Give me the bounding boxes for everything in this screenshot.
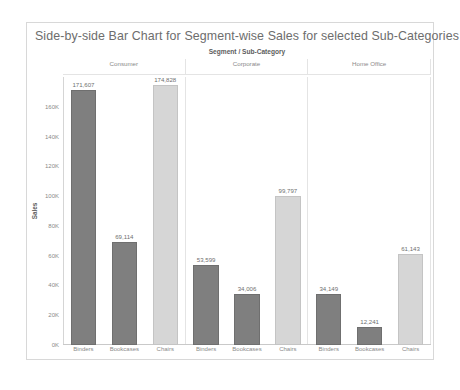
page-title: Side-by-side Bar Chart for Segment-wise … [35, 29, 429, 43]
y-axis-title: Sales [31, 188, 38, 234]
bar-value-label: 69,114 [94, 233, 154, 240]
segment-header-consumer: Consumer [63, 59, 186, 75]
segment-header-corporate: Corporate [186, 59, 309, 75]
bar-group: 174,828 [153, 77, 178, 345]
bar-home-office-binders[interactable] [316, 294, 341, 345]
y-tick-label: 120K [45, 163, 59, 169]
bar-group: 34,006 [234, 77, 259, 345]
bar-value-label: 174,828 [135, 76, 195, 83]
y-axis-line [63, 77, 64, 345]
segment-header-home-office: Home Office [308, 59, 431, 75]
bar-consumer-binders[interactable] [71, 90, 96, 346]
bar-home-office-chairs[interactable] [398, 254, 423, 345]
bar-corporate-chairs[interactable] [275, 196, 300, 345]
column-header-band: Segment / Sub-Category ConsumerCorporate… [63, 47, 431, 77]
bar-value-label: 34,149 [299, 285, 359, 292]
x-tick-label-chairs: Chairs [381, 346, 441, 352]
bar-value-label: 99,797 [258, 187, 318, 194]
bar-group: 171,607 [71, 77, 96, 345]
bar-group: 34,149 [316, 77, 341, 345]
bar-group: 12,241 [357, 77, 382, 345]
y-tick-label: 160K [45, 104, 59, 110]
bar-corporate-binders[interactable] [193, 265, 218, 345]
y-axis: Sales 160K140K120K100K80K60K40K20K0K [27, 77, 63, 345]
bar-home-office-bookcases[interactable] [357, 327, 382, 345]
plot-area: 171,60769,114174,82853,59934,00699,79734… [63, 77, 431, 345]
bar-group: 69,114 [112, 77, 137, 345]
bar-value-label: 53,599 [176, 256, 236, 263]
y-tick-label: 60K [48, 253, 59, 259]
y-tick-label: 80K [48, 223, 59, 229]
bar-value-label: 12,241 [340, 318, 400, 325]
x-axis-field-caption: Segment / Sub-Category [63, 47, 431, 56]
bar-consumer-bookcases[interactable] [112, 242, 137, 345]
bar-value-label: 34,006 [217, 285, 277, 292]
y-tick-label: 140K [45, 134, 59, 140]
x-axis: BindersBookcasesChairsBindersBookcasesCh… [63, 345, 431, 359]
visualization-frame: Side-by-side Bar Chart for Segment-wise … [26, 22, 434, 360]
bar-corporate-bookcases[interactable] [234, 294, 259, 345]
y-tick-label: 20K [48, 312, 59, 318]
y-tick-label: 100K [45, 193, 59, 199]
bar-group: 99,797 [275, 77, 300, 345]
bar-consumer-chairs[interactable] [153, 85, 178, 345]
bar-value-label: 61,143 [381, 245, 441, 252]
bar-group: 53,599 [193, 77, 218, 345]
bar-value-label: 171,607 [53, 81, 113, 88]
bar-group: 61,143 [398, 77, 423, 345]
y-tick-label: 40K [48, 282, 59, 288]
